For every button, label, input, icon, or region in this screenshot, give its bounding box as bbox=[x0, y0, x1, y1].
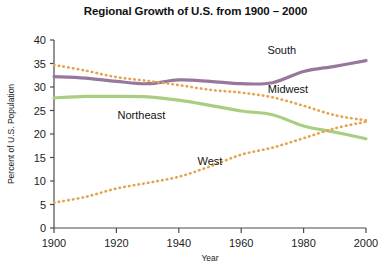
y-tick-label: 25 bbox=[34, 105, 46, 117]
line-chart-plot: 0510152025303540 Percent of U.S. Populat… bbox=[0, 0, 391, 268]
series-label-midwest: Midwest bbox=[268, 83, 308, 95]
series-label-south: South bbox=[267, 44, 296, 56]
series-label-northeast: Northeast bbox=[118, 109, 166, 121]
y-axis: 0510152025303540 Percent of U.S. Populat… bbox=[6, 34, 54, 234]
series-line-midwest bbox=[54, 65, 366, 120]
y-axis-title: Percent of U.S. Population bbox=[6, 84, 16, 184]
y-tick-label: 20 bbox=[34, 128, 46, 140]
y-tick-label: 40 bbox=[34, 34, 46, 46]
y-tick-label: 0 bbox=[40, 222, 46, 234]
x-tick-label-group: 190019201940196019802000 bbox=[42, 237, 378, 249]
x-tick-label: 1900 bbox=[42, 237, 66, 249]
x-tick-label: 1940 bbox=[167, 237, 191, 249]
series-label-west: West bbox=[198, 155, 223, 167]
x-axis-title: Year bbox=[201, 253, 218, 263]
series-path-group bbox=[54, 61, 366, 203]
y-tick-label: 10 bbox=[34, 175, 46, 187]
x-tick-label: 1980 bbox=[291, 237, 315, 249]
x-axis: 190019201940196019802000 Year bbox=[42, 228, 378, 263]
series-line-south bbox=[54, 61, 366, 84]
y-tick-label: 35 bbox=[34, 58, 46, 70]
chart-container: Regional Growth of U.S. from 1900 – 2000… bbox=[0, 0, 391, 268]
x-tick-label: 1920 bbox=[104, 237, 128, 249]
x-tick-label: 1960 bbox=[229, 237, 253, 249]
y-tick-label: 30 bbox=[34, 81, 46, 93]
y-tick-label: 5 bbox=[40, 199, 46, 211]
x-tick-group bbox=[54, 228, 366, 233]
x-tick-label: 2000 bbox=[354, 237, 378, 249]
y-tick-label-group: 0510152025303540 bbox=[34, 34, 46, 234]
y-tick-label: 15 bbox=[34, 152, 46, 164]
